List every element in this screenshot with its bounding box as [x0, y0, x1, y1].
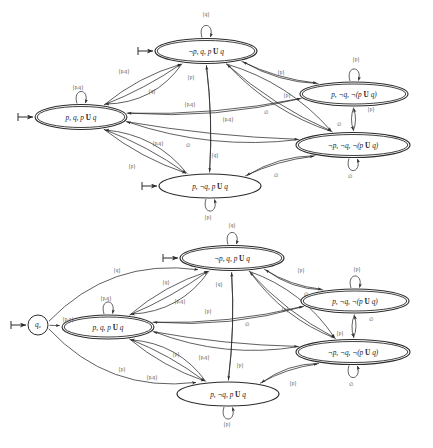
edge-label-edge-label-pq-to-right-b: {p,q}	[222, 116, 233, 123]
edge-label-edge-label-npnqnot-to-pnq: ∅	[274, 172, 278, 178]
edge-label-loop-label-right-upper: {p}	[353, 266, 360, 273]
self-loop-edge	[223, 407, 233, 419]
initial-state-label: q₀	[35, 320, 42, 329]
state-node: p, ¬q, p U q	[177, 382, 279, 406]
transition-edge	[352, 315, 355, 338]
state-node: p, q, p U q	[35, 105, 127, 130]
edge-label-edge-label-npq-to-npnqnot: {p}	[281, 306, 288, 313]
transition-edge	[128, 98, 302, 114]
self-loop-edge	[227, 232, 237, 244]
transition-edge	[130, 339, 205, 381]
edge-label-q0-to-npq: {q}	[113, 267, 120, 274]
edge-label-loop-label-left: {p,q}	[100, 295, 111, 302]
self-loop-edge	[349, 69, 359, 81]
state-label: p, ¬q, p U q	[191, 181, 228, 190]
edge-label-loop-label-right-upper: {p}	[352, 56, 359, 63]
transition-edge	[154, 332, 299, 351]
edge-label-edge-label-npq-vertical-lower: {q}	[211, 152, 218, 159]
self-loop-edge	[76, 91, 86, 103]
edge-label-edge-label-right-pair-empty: ∅	[337, 121, 341, 127]
transition-edge	[106, 64, 183, 105]
edge-labels-layer: {q}{p,q}{p}∅{p}{p,q}{q}{p}{q}{p}{p}∅{p,q…	[62, 11, 374, 428]
edge-label-edge-label-npq-to-npnqnot: {p}	[283, 92, 290, 99]
state-label: p, q, p U q	[65, 112, 97, 121]
state-label: ¬p, q, p U q	[214, 253, 250, 262]
transition-edge	[126, 122, 298, 140]
transition-edge	[104, 129, 186, 173]
initial-state-marker	[163, 254, 178, 262]
state-node: ¬p, q, p U q	[155, 39, 257, 64]
edge-label-edge-label-pq-to-npq-b: {q}	[148, 88, 155, 95]
transition-edge	[354, 316, 357, 339]
nodes-layer: ¬p, q, p U qp, q, p U qp, ¬q, ¬(p U q)¬p…	[11, 39, 410, 407]
initial-state-marker	[142, 182, 157, 190]
edge-label-edge-label-right-pair-p: {p}	[367, 106, 374, 113]
transition-edge	[130, 271, 208, 315]
edge-label-loop-label-bottom: {p}	[204, 214, 211, 221]
transition-edge	[353, 109, 355, 132]
state-label: ¬p, ¬q, ¬(p U q)	[328, 140, 379, 149]
transition-edge	[131, 340, 206, 382]
state-label: p, q, p U q	[92, 322, 124, 331]
edge-label-edge-label-pq-to-right-a: {p}	[204, 308, 211, 315]
state-node: p, q, p U q	[62, 315, 154, 339]
edge-label-edge-label-npq-vertical-lower: {p}	[236, 362, 243, 369]
initial-state-marker	[138, 47, 153, 55]
edge-label-edge-label-pq-to-pnq: {p,q}	[152, 140, 163, 147]
state-node: ¬p, ¬q, ¬(p U q)	[296, 340, 410, 365]
transition-edge	[104, 129, 186, 173]
edge-label-edge-label-pq-to-right-a: {p,q}	[184, 101, 195, 108]
state-label: p, ¬q, ¬(p U q)	[330, 89, 377, 98]
state-label: ¬p, ¬q, ¬(p U q)	[328, 347, 379, 356]
transition-edge	[264, 269, 322, 289]
edge-label-edge-label-pq-to-pnq-b: {p}	[128, 163, 135, 170]
self-loop-edge	[103, 302, 113, 314]
transition-edge	[104, 64, 181, 105]
edge-label-loop-label-bottom: {p}	[223, 421, 230, 428]
self-loop-edge	[348, 159, 358, 171]
edge-label-edge-label-pq-to-pnq-a: {p}	[172, 351, 179, 358]
transition-edge	[247, 156, 316, 176]
self-loop-edge	[201, 25, 211, 37]
edge-label-loop-label-top: {q}	[202, 11, 209, 18]
edge-label-edge-label-npq-vertical: {p}	[187, 74, 194, 81]
initial-state-marker	[11, 321, 26, 329]
edge-label-q0-to-pnq: {p}	[118, 366, 125, 373]
edge-label-loop-label-left: {p,q}	[72, 84, 83, 91]
edge-label-edge-label-npq-to-pnqnot: {p}	[277, 69, 284, 76]
edge-label-edge-label-right-pair-p: {p}	[336, 330, 343, 337]
state-node: p, ¬q, ¬(p U q)	[300, 82, 408, 106]
initial-state-marker	[18, 113, 33, 121]
edge-label-edge-label-npq-to-empty: ∅	[304, 291, 308, 297]
state-label: p, ¬q, ¬(p U q)	[331, 296, 378, 305]
state-node: ¬p, ¬q, ¬(p U q)	[296, 133, 410, 158]
transition-edge	[105, 130, 187, 174]
transition-edge	[104, 64, 181, 105]
edge-label-edge-label-npq-to-empty: ∅	[264, 109, 268, 115]
state-label: p, ¬q, p U q	[209, 389, 246, 398]
edge-label-edge-label-npnqnot-to-pnq: {p}	[289, 380, 296, 387]
edge-label-edge-label-pq-to-npq-b: {p,q}	[174, 298, 185, 305]
edge-label-loop-label-right-lower: ∅	[349, 381, 353, 387]
edge-label-edge-label-pq-to-right-b: ∅	[245, 321, 249, 327]
edge-label-q0-to-pq: {p,q}	[62, 316, 73, 323]
transition-edge	[266, 270, 324, 290]
automata-figure: ¬p, q, p U qp, q, p U qp, ¬q, ¬(p U q)¬p…	[0, 0, 433, 448]
self-loop-edge	[350, 276, 360, 288]
self-loop-edge	[205, 199, 215, 211]
edge-label-edge-label-pq-empty: ∅	[186, 142, 190, 148]
state-label: ¬p, q, p U q	[188, 46, 224, 55]
initial-state-node: q₀	[28, 315, 48, 335]
edge-label-loop-label-right-lower: ∅	[348, 173, 352, 179]
transition-edge	[49, 268, 198, 321]
transition-edge	[130, 339, 205, 381]
state-node: p, ¬q, p U q	[159, 174, 261, 198]
state-node: ¬p, q, p U q	[180, 246, 284, 271]
transition-edge	[153, 307, 303, 323]
transition-edge	[130, 271, 208, 315]
edge-label-loop-label-top: {q}	[228, 222, 235, 229]
transition-edge	[245, 156, 314, 176]
edge-label-edge-label-npq-to-pnqnot: {p}	[297, 267, 304, 274]
transition-edge	[351, 108, 353, 131]
edge-label-edge-label-pq-to-npq-a: {q}	[162, 279, 169, 286]
